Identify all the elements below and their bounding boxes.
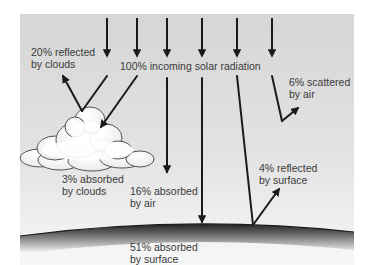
reflected-surface-label: 4% reflected by surface (259, 163, 317, 186)
absorbed-surface-label-line2: by surface (130, 254, 198, 265)
absorbed-surface-label-line1: 51% absorbed (130, 242, 198, 254)
absorbed-air-label-line1: 16% absorbed (130, 186, 198, 198)
absorbed-clouds-label: 3% absorbed by clouds (62, 174, 124, 197)
reflected-surface-label-line1: 4% reflected (259, 163, 317, 175)
incoming-label: 100% incoming solar radiation (120, 61, 261, 73)
reflected-clouds-label-line2: by clouds (31, 59, 95, 71)
absorbed-air-label: 16% absorbed by air (130, 186, 198, 209)
absorbed-clouds-label-line2: by clouds (62, 186, 124, 198)
scattered-air-label: 6% scattered by air (289, 77, 350, 100)
solar-radiation-diagram: 100% incoming solar radiation 20% reflec… (0, 0, 376, 265)
absorbed-clouds-label-line1: 3% absorbed (62, 174, 124, 186)
scattered-air-label-line2: by air (289, 89, 350, 101)
incoming-label-text: 100% incoming solar radiation (120, 61, 261, 73)
reflected-clouds-label-line1: 20% reflected (31, 47, 95, 59)
scattered-air-label-line1: 6% scattered (289, 77, 350, 89)
absorbed-air-label-line2: by air (130, 198, 198, 210)
reflected-surface-label-line2: by surface (259, 175, 317, 187)
diagram-canvas (0, 0, 376, 265)
reflected-clouds-label: 20% reflected by clouds (31, 47, 95, 70)
absorbed-surface-label: 51% absorbed by surface (130, 242, 198, 265)
